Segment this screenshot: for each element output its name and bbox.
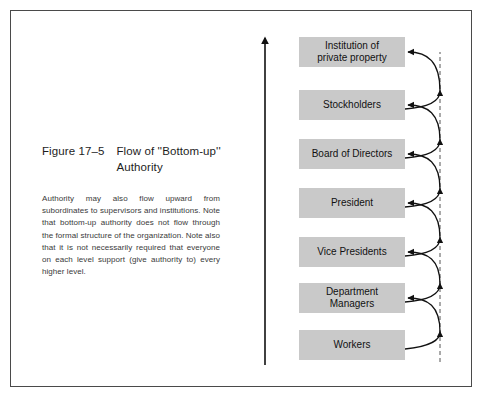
arc-vice-presidents-up [405, 238, 440, 256]
figure-container: Figure 17–5 Flow of ''Bottom-up'' Author… [0, 0, 482, 397]
arc-into-department-managers [408, 298, 440, 332]
bottom-up-authority-arcs [405, 52, 440, 349]
diagram-lines [0, 0, 482, 397]
arc-into-stockholders [408, 105, 440, 140]
arc-department-managers-up [405, 284, 440, 302]
arc-stockholders-up [405, 91, 440, 109]
diagram: Institution of private property Stockhol… [0, 0, 482, 397]
arc-president-up [405, 189, 440, 207]
arc-board-of-directors-up [405, 140, 440, 158]
arc-workers-up [405, 332, 440, 349]
arc-into-institution [408, 52, 440, 91]
arc-into-vice-presidents [408, 252, 440, 284]
arc-into-board-of-directors [408, 154, 440, 189]
arc-into-president [408, 203, 440, 238]
